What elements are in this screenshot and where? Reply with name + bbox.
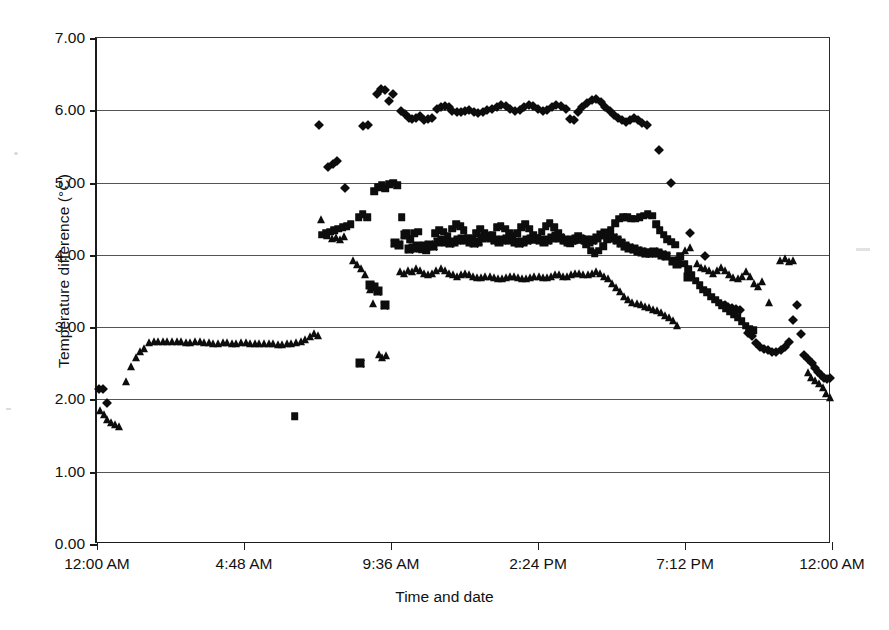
data-point-cross bbox=[400, 230, 409, 239]
data-point-cross bbox=[486, 233, 495, 242]
data-point-cross bbox=[645, 249, 654, 258]
data-point-cross bbox=[373, 287, 382, 296]
data-point-cross bbox=[458, 234, 467, 243]
y-tick-mark bbox=[90, 327, 97, 329]
data-point-cross bbox=[629, 245, 638, 254]
data-point-cross bbox=[494, 237, 503, 246]
data-point-cross bbox=[560, 236, 569, 245]
y-tick-mark bbox=[90, 110, 97, 112]
data-point-cross bbox=[605, 230, 614, 239]
y-tick-label: 1.00 bbox=[55, 463, 85, 481]
data-point-cross bbox=[580, 236, 589, 245]
data-point-cross bbox=[641, 249, 650, 258]
data-point-cross bbox=[511, 237, 520, 246]
data-point-cross bbox=[490, 236, 499, 245]
data-point-cross bbox=[453, 236, 462, 245]
data-point-cross bbox=[584, 237, 593, 246]
data-point-cross bbox=[369, 283, 378, 292]
scan-speck bbox=[6, 408, 11, 410]
data-point-cross bbox=[547, 233, 556, 242]
data-point-cross bbox=[617, 239, 626, 248]
data-point-cross bbox=[539, 237, 548, 246]
y-tick-label: 4.00 bbox=[55, 246, 85, 264]
data-point-cross bbox=[654, 249, 663, 258]
data-point-cross bbox=[633, 246, 642, 255]
data-point-cross bbox=[409, 243, 418, 252]
data-point-cross bbox=[531, 234, 540, 243]
data-point-cross bbox=[425, 240, 434, 249]
data-point-cross bbox=[668, 256, 677, 265]
data-point-cross bbox=[413, 242, 422, 251]
data-point-cross bbox=[551, 232, 560, 241]
data-point-cross bbox=[394, 240, 403, 249]
x-tick-label: 12:00 AM bbox=[64, 555, 130, 573]
data-point-cross bbox=[421, 242, 430, 251]
x-tick-mark bbox=[832, 542, 833, 550]
data-point-cross bbox=[470, 239, 479, 248]
y-tick-mark bbox=[90, 544, 97, 546]
data-point-cross bbox=[429, 242, 438, 251]
data-point-cross bbox=[556, 233, 565, 242]
data-point-cross bbox=[417, 243, 426, 252]
data-point-cross bbox=[366, 281, 375, 290]
data-point-cross bbox=[441, 237, 450, 246]
chart-figure: Temperature difference (°C) 0.001.002.00… bbox=[0, 0, 889, 630]
data-point-cross bbox=[609, 233, 618, 242]
data-point-cross bbox=[600, 229, 609, 238]
y-tick-mark bbox=[90, 255, 97, 257]
data-point-cross bbox=[543, 236, 552, 245]
data-point-cross bbox=[515, 239, 524, 248]
data-point-cross bbox=[649, 247, 658, 256]
data-point-cross bbox=[564, 237, 573, 246]
x-tick-mark bbox=[391, 542, 392, 550]
data-point-cross bbox=[482, 232, 491, 241]
data-point-cross bbox=[474, 237, 483, 246]
data-point-cross bbox=[390, 239, 399, 248]
scan-speck bbox=[856, 248, 870, 251]
data-point-cross bbox=[356, 359, 365, 368]
data-point-cross bbox=[625, 243, 634, 252]
y-tick-mark bbox=[90, 38, 97, 40]
data-point-cross bbox=[498, 236, 507, 245]
data-point-cross bbox=[613, 236, 622, 245]
data-point-cross bbox=[673, 259, 682, 268]
y-tick-mark bbox=[90, 472, 97, 474]
data-point-cross bbox=[405, 245, 414, 254]
y-tick-mark bbox=[90, 399, 97, 401]
data-point-cross bbox=[462, 236, 471, 245]
data-point-cross bbox=[592, 233, 601, 242]
y-axis-title: Temperature difference (°C) bbox=[55, 111, 73, 431]
data-point-cross bbox=[527, 234, 536, 243]
data-point-cross bbox=[502, 234, 511, 243]
y-tick-label: 0.00 bbox=[55, 535, 85, 553]
x-axis-title: Time and date bbox=[0, 588, 889, 606]
y-tick-mark bbox=[90, 183, 97, 185]
data-point-cross bbox=[662, 252, 671, 261]
scan-speck bbox=[14, 152, 18, 155]
data-point-cross bbox=[637, 247, 646, 256]
x-tick-label: 9:36 AM bbox=[363, 555, 420, 573]
plot-area: 0.001.002.003.004.005.006.007.00 12:00 A… bbox=[95, 37, 830, 543]
scan-artifact-caption bbox=[0, 612, 889, 624]
x-tick-label: 2:24 PM bbox=[509, 555, 567, 573]
data-point-cross bbox=[445, 239, 454, 248]
x-tick-label: 7:12 PM bbox=[656, 555, 714, 573]
data-point-cross bbox=[466, 237, 475, 246]
data-point-cross bbox=[478, 233, 487, 242]
y-tick-label: 2.00 bbox=[55, 390, 85, 408]
data-point-cross bbox=[449, 237, 458, 246]
data-point-cross bbox=[576, 234, 585, 243]
x-tick-label: 4:48 AM bbox=[216, 555, 273, 573]
x-tick-mark bbox=[685, 542, 686, 550]
series-cross bbox=[97, 38, 829, 542]
x-tick-label: 12:00 AM bbox=[799, 555, 865, 573]
data-point-cross bbox=[684, 272, 693, 281]
y-tick-label: 6.00 bbox=[55, 101, 85, 119]
data-point-cross bbox=[380, 301, 389, 310]
y-tick-label: 3.00 bbox=[55, 318, 85, 336]
x-tick-mark bbox=[97, 542, 98, 550]
data-point-cross bbox=[433, 237, 442, 246]
data-point-cross bbox=[658, 250, 667, 259]
data-point-cross bbox=[588, 236, 597, 245]
data-point-cross bbox=[596, 230, 605, 239]
